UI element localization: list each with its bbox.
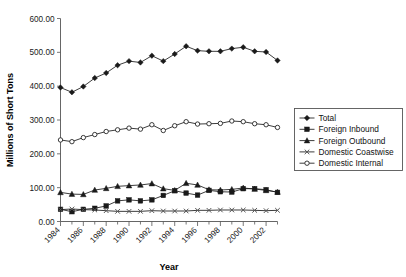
data-point-marker — [150, 198, 155, 203]
x-tick-label: 1990 — [111, 225, 131, 245]
legend-item-label: Foreign Outbound — [319, 136, 386, 146]
series-domestic-internal — [58, 119, 279, 144]
chart-legend: TotalForeign InboundForeign OutboundDome… — [295, 109, 403, 171]
data-point-marker — [138, 127, 142, 131]
chart-container: 0.00100.00200.00300.00400.00500.00600.00… — [0, 0, 406, 277]
data-point-marker — [241, 45, 246, 50]
series-total — [58, 44, 280, 95]
legend-item-label: Domestic Internal — [319, 158, 384, 168]
data-point-marker — [218, 121, 222, 125]
data-point-marker — [305, 161, 309, 165]
x-tick-label: 1994 — [157, 225, 177, 245]
x-tick-label: 1984 — [43, 225, 63, 245]
legend-item-label: Domestic Coastwise — [319, 147, 395, 157]
line-chart: 0.00100.00200.00300.00400.00500.00600.00… — [0, 0, 406, 277]
data-point-marker — [229, 46, 234, 51]
x-tick-label: 1996 — [180, 225, 200, 245]
x-tick-label: 1986 — [66, 225, 86, 245]
y-tick-label: 0.00 — [39, 218, 55, 227]
data-point-marker — [70, 139, 74, 143]
series-foreign-outbound — [58, 180, 281, 196]
data-point-marker — [58, 138, 62, 142]
data-point-marker — [173, 124, 177, 128]
data-point-marker — [183, 44, 188, 49]
series-line — [61, 46, 278, 92]
data-point-marker — [81, 135, 85, 139]
data-point-marker — [103, 70, 108, 75]
data-point-marker — [206, 49, 211, 54]
data-point-marker — [127, 126, 131, 130]
data-point-marker — [161, 58, 166, 63]
series-domestic-coastwise — [58, 207, 280, 214]
x-tick-label: 1992 — [134, 225, 154, 245]
data-point-marker — [275, 125, 279, 129]
data-point-marker — [161, 128, 165, 132]
data-point-marker — [195, 48, 200, 53]
data-point-marker — [115, 199, 120, 204]
data-point-marker — [150, 123, 154, 127]
data-point-marker — [161, 193, 166, 198]
data-point-marker — [207, 122, 211, 126]
legend-item-label: Total — [319, 113, 337, 123]
data-point-marker — [241, 119, 245, 123]
series-line — [61, 121, 278, 142]
x-tick-label: 1988 — [88, 225, 108, 245]
data-point-marker — [127, 198, 132, 203]
y-tick-label: 100.00 — [29, 184, 54, 193]
data-point-marker — [195, 193, 200, 198]
data-point-marker — [230, 119, 234, 123]
data-point-marker — [138, 60, 143, 65]
data-point-marker — [104, 129, 108, 133]
x-axis-title: Year — [159, 262, 179, 272]
x-tick-label: 2000 — [225, 225, 245, 245]
data-point-marker — [160, 186, 166, 191]
data-point-marker — [138, 199, 143, 204]
data-point-marker — [252, 49, 257, 54]
y-tick-label: 600.00 — [29, 15, 54, 24]
data-point-marker — [264, 123, 268, 127]
y-tick-label: 500.00 — [29, 48, 54, 57]
data-point-marker — [104, 204, 109, 209]
data-point-marker — [172, 51, 177, 56]
y-tick-label: 300.00 — [29, 116, 54, 125]
data-point-marker — [183, 180, 189, 185]
data-point-marker — [126, 58, 131, 63]
data-point-marker — [305, 127, 310, 132]
data-point-marker — [58, 85, 63, 90]
data-point-marker — [252, 122, 256, 126]
legend-item-label: Foreign Inbound — [319, 124, 380, 134]
y-tick-label: 400.00 — [29, 82, 54, 91]
data-point-marker — [115, 128, 119, 132]
y-tick-label: 200.00 — [29, 150, 54, 159]
data-point-marker — [149, 53, 154, 58]
data-point-marker — [184, 191, 189, 196]
data-point-marker — [184, 119, 188, 123]
data-point-marker — [195, 122, 199, 126]
data-point-marker — [115, 62, 120, 67]
data-point-marker — [149, 181, 155, 186]
y-axis-title: Millions of Short Tons — [5, 73, 15, 167]
data-point-marker — [218, 49, 223, 54]
x-tick-label: 2002 — [248, 225, 268, 245]
data-point-marker — [93, 132, 97, 136]
x-tick-label: 1998 — [203, 225, 223, 245]
data-point-marker — [69, 90, 74, 95]
data-point-marker — [58, 190, 64, 195]
